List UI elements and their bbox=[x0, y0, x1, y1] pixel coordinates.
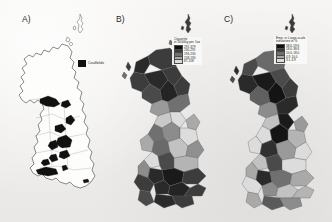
legend-row: Coalfields bbox=[78, 61, 104, 66]
legend-label-b-5: 87-158 bbox=[184, 60, 194, 63]
legend-title-c: Emp. in Large-scale industries in % bbox=[276, 37, 305, 44]
legend-swatch-c-5 bbox=[276, 58, 285, 63]
uk-choropleth-map-b bbox=[110, 0, 222, 222]
map-a-islands bbox=[66, 14, 83, 46]
panel-a: A) bbox=[0, 0, 111, 222]
figure-container: A) bbox=[0, 0, 332, 222]
choropleth-regions-c bbox=[238, 50, 314, 210]
legend-row: 87-158 bbox=[174, 60, 200, 64]
uk-choropleth-map-c bbox=[220, 0, 332, 222]
legend-title-b: Cigarette in 5000kg per 1oz bbox=[174, 38, 200, 45]
choropleth-regions-b bbox=[130, 48, 206, 208]
legend-label-c-5: 3.1-4.9 bbox=[286, 59, 296, 62]
legend-label-coalfields: Coalfields bbox=[88, 62, 104, 66]
legend-panel-c: Emp. in Large-scale industries in % 38.6… bbox=[274, 36, 307, 64]
panel-b: B) bbox=[110, 0, 222, 222]
legend-panel-a: Coalfields bbox=[76, 60, 106, 67]
legend-swatch-coalfields bbox=[78, 60, 86, 67]
legend-swatch-b-5 bbox=[174, 59, 183, 64]
legend-panel-b: Cigarette in 5000kg per 1oz 291-379 230-… bbox=[172, 37, 202, 65]
uk-outline-map-a bbox=[0, 0, 111, 222]
panel-c: C) bbox=[220, 0, 332, 222]
legend-row: 3.1-4.9 bbox=[276, 59, 305, 63]
